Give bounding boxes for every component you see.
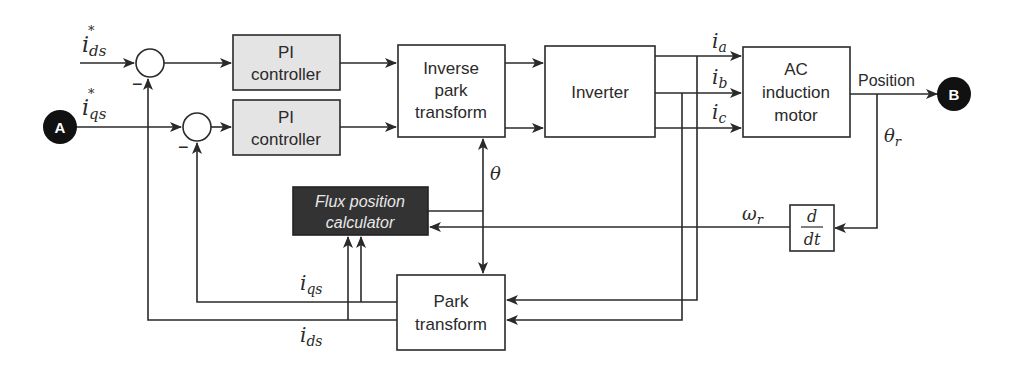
omega-r-label: ωr <box>742 203 764 227</box>
ddt-denominator: dt <box>804 230 821 249</box>
flux-line1: Flux position <box>315 193 405 210</box>
pi-d-line2: controller <box>251 65 321 84</box>
theta-r-label: θr <box>884 125 902 149</box>
theta-label: θ <box>490 163 501 184</box>
motor-line3: motor <box>774 106 818 125</box>
inverse-park-line2: park <box>434 81 468 100</box>
pi-q-line2: controller <box>251 130 321 149</box>
connector-a-label: A <box>55 119 66 136</box>
foc-block-diagram: − − A B PI controller PI controller Inve… <box>0 0 1014 368</box>
park-line1: Park <box>434 292 469 311</box>
summer-q-minus-sign: − <box>178 137 189 157</box>
inverter-label: Inverter <box>571 83 629 102</box>
position-label: Position <box>858 72 915 89</box>
ddt-numerator: d <box>807 207 817 226</box>
ia-label: ia <box>712 29 727 55</box>
flux-line2: calculator <box>326 214 395 231</box>
inverse-park-line1: Inverse <box>423 59 479 78</box>
ids-feedback-label: ids <box>300 323 323 349</box>
motor-line2: induction <box>762 83 830 102</box>
ids-ref-star: * <box>88 23 95 38</box>
inverse-park-line3: transform <box>415 103 487 122</box>
ib-label: ib <box>712 65 727 91</box>
iqs-ref-star: * <box>88 86 95 101</box>
iqs-feedback-label: iqs <box>300 271 323 297</box>
park-transform-block <box>397 275 505 350</box>
pi-d-line1: PI <box>278 43 294 62</box>
summer-d-minus-sign: − <box>132 74 143 94</box>
summer-d <box>136 49 164 77</box>
motor-line1: AC <box>784 60 808 79</box>
ic-label: ic <box>712 100 726 126</box>
park-line2: transform <box>415 315 487 334</box>
connector-b-label: B <box>949 86 960 103</box>
pi-q-line1: PI <box>278 108 294 127</box>
